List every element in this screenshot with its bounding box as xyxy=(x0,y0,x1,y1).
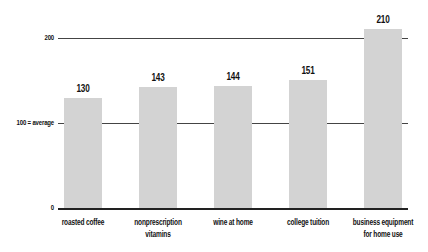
bar xyxy=(364,29,402,208)
y-tick-label-100-average: 100 = average xyxy=(11,118,54,127)
x-category-label: college tuition xyxy=(272,217,344,229)
x-category-label: roasted coffee xyxy=(47,217,119,229)
x-category-label-line: business equipment xyxy=(347,217,419,229)
bar xyxy=(64,98,102,208)
x-category-label-line: wine at home xyxy=(197,217,269,229)
bar xyxy=(139,87,177,208)
x-category-label-line: for home use xyxy=(347,229,419,241)
x-category-label-line: vitamins xyxy=(122,229,194,241)
x-category-label-line: nonprescription xyxy=(122,217,194,229)
bar-chart: 200 100 = average 0 130roasted coffee143… xyxy=(0,0,428,252)
y-tick-label-200: 200 xyxy=(11,33,54,42)
x-category-label-line: roasted coffee xyxy=(47,217,119,229)
x-category-label-line: college tuition xyxy=(272,217,344,229)
gridline-200 xyxy=(58,38,408,39)
bar-value-label: 144 xyxy=(214,70,253,82)
x-category-label: wine at home xyxy=(197,217,269,229)
x-axis-baseline xyxy=(58,208,408,210)
y-tick-label-0: 0 xyxy=(11,203,54,212)
bar xyxy=(289,80,327,208)
bar-value-label: 130 xyxy=(64,82,103,94)
x-category-label: business equipmentfor home use xyxy=(347,217,419,241)
bar xyxy=(214,86,252,208)
bar-value-label: 210 xyxy=(364,13,403,25)
bar-value-label: 143 xyxy=(139,71,178,83)
x-category-label: nonprescriptionvitamins xyxy=(122,217,194,241)
bar-value-label: 151 xyxy=(289,64,328,76)
